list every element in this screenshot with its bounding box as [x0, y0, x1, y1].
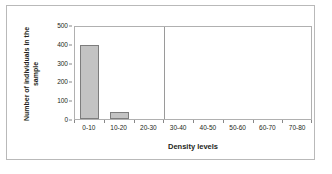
y-axis-tick-label: 200	[57, 79, 68, 86]
y-axis-tick-mark	[69, 26, 72, 27]
bar-slot	[223, 27, 253, 119]
x-axis-ticks: 0-1010-2020-3030-4040-5050-6060-7070-80	[74, 120, 312, 134]
bar	[80, 45, 99, 119]
bar-slot	[193, 27, 223, 119]
x-axis-title: Density levels	[74, 142, 312, 151]
chart-figure: Number of individuals in the sample 0100…	[0, 0, 332, 174]
y-axis-tick-label: 0	[64, 117, 68, 124]
x-axis-tick: 50-60	[223, 120, 253, 134]
y-axis-tick-label: 300	[57, 60, 68, 67]
x-axis-tick-mark	[282, 120, 283, 123]
bar-slot	[105, 27, 135, 119]
x-axis-tick-mark	[193, 120, 194, 123]
bar	[110, 112, 129, 119]
x-axis-tick-label: 70-80	[282, 125, 312, 132]
y-axis-tick-label: 100	[57, 98, 68, 105]
y-axis-tick-mark	[69, 120, 72, 121]
y-axis-title: Number of individuals in the sample	[16, 20, 48, 128]
bar-series	[75, 27, 311, 119]
x-axis-tick-label: 20-30	[134, 125, 164, 132]
x-axis-tick: 20-30	[134, 120, 164, 134]
x-axis-tick-mark	[311, 120, 312, 123]
bar-slot	[134, 27, 164, 119]
y-axis-ticks: 0100200300400500	[47, 26, 72, 120]
y-axis-tick-mark	[69, 63, 72, 64]
x-axis-tick-label: 40-50	[193, 125, 223, 132]
y-axis-tick-label: 400	[57, 42, 68, 49]
bar-slot	[75, 27, 105, 119]
x-axis-tick-mark	[74, 120, 75, 123]
x-axis-tick: 60-70	[253, 120, 283, 134]
vertical-divider-line	[164, 27, 165, 119]
x-axis-tick: 40-50	[193, 120, 223, 134]
x-axis-tick-label: 50-60	[223, 125, 253, 132]
bar-slot	[164, 27, 194, 119]
x-axis-tick-label: 0-10	[74, 125, 104, 132]
figure-frame: Number of individuals in the sample 0100…	[6, 5, 315, 160]
bar-slot	[252, 27, 282, 119]
x-axis-tick-mark	[223, 120, 224, 123]
x-axis-tick: 30-40	[163, 120, 193, 134]
x-axis-tick-label: 30-40	[163, 125, 193, 132]
x-axis-tick: 10-20	[104, 120, 134, 134]
x-axis-tick: 70-80	[282, 120, 312, 134]
x-axis-tick-mark	[163, 120, 164, 123]
x-axis-tick-mark	[104, 120, 105, 123]
plot-area	[74, 26, 312, 120]
x-axis-tick-mark	[134, 120, 135, 123]
y-axis-tick-mark	[69, 101, 72, 102]
y-axis-tick-label: 500	[57, 23, 68, 30]
y-axis-tick-mark	[69, 44, 72, 45]
y-axis-title-text: Number of individuals in the sample	[23, 20, 41, 128]
x-axis-tick-label: 60-70	[253, 125, 283, 132]
bar-slot	[282, 27, 312, 119]
x-axis-tick: 0-10	[74, 120, 104, 134]
x-axis-tick-label: 10-20	[104, 125, 134, 132]
y-axis-tick-mark	[69, 82, 72, 83]
x-axis-tick-mark	[253, 120, 254, 123]
